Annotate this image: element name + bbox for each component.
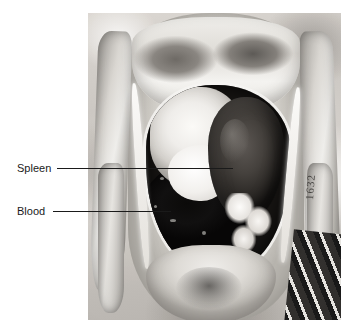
blood-highlight: [202, 231, 206, 235]
spleen-highlight: [220, 119, 250, 163]
left-forearm: [98, 163, 124, 313]
pelvis-shadow: [176, 267, 242, 309]
annotation-label-spleen: Spleen: [17, 162, 51, 174]
figure-root: 1632 Spleen Blood: [0, 0, 355, 335]
blood-highlight: [154, 205, 157, 208]
leader-line-blood: [53, 211, 171, 212]
abdominal-cavity: [146, 85, 290, 269]
scale-instrument: [284, 229, 341, 320]
photo-case-number: 1632: [303, 174, 317, 201]
leader-line-spleen: [57, 168, 233, 169]
pelvis-region: [146, 245, 276, 320]
blood-highlight: [160, 177, 164, 180]
abdominal-cavity-photo: 1632: [88, 13, 341, 320]
annotation-label-blood: Blood: [17, 205, 45, 217]
blood-highlight: [170, 219, 176, 222]
